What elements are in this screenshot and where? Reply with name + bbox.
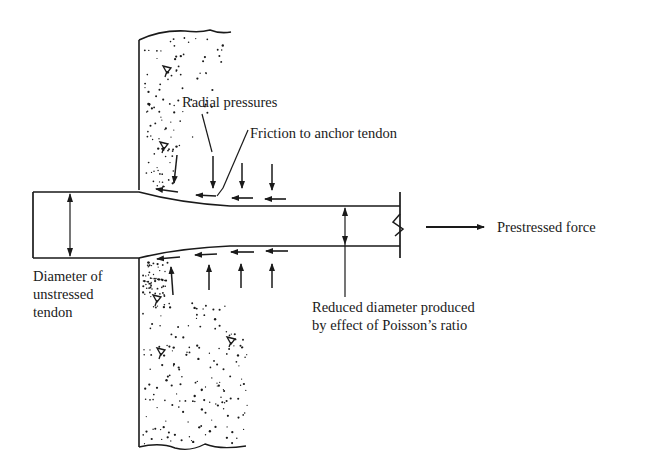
radial-pressure-arrows-bottom <box>171 264 272 295</box>
label-unstressed-diameter-3: tendon <box>33 303 72 321</box>
label-unstressed-diameter-2: unstressed <box>33 285 93 303</box>
label-prestressed-force: Prestressed force <box>497 218 596 236</box>
label-friction: Friction to anchor tendon <box>250 124 397 142</box>
hoyer-effect-diagram <box>0 0 656 472</box>
tendon <box>33 192 403 258</box>
friction-leader-foot <box>217 188 223 196</box>
friction-arrows-bottom <box>157 251 288 259</box>
label-unstressed-diameter-1: Diameter of <box>33 267 103 285</box>
friction-leader <box>223 130 248 188</box>
label-reduced-diameter-2: by effect of Poisson’s ratio <box>312 316 467 334</box>
concrete-lower <box>139 258 246 449</box>
label-reduced-diameter-1: Reduced diameter produced <box>312 298 475 316</box>
label-radial-pressures: Radial pressures <box>182 93 277 111</box>
